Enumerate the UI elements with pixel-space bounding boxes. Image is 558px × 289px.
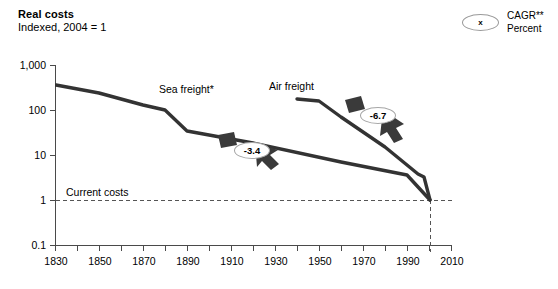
y-ticks <box>50 66 55 246</box>
y-tick-label-100: 100 <box>2 105 46 116</box>
x-tick-label-1950: 1950 <box>298 256 342 267</box>
x-tick-label-1930: 1930 <box>254 256 298 267</box>
x-tick-label-1890: 1890 <box>166 256 210 267</box>
y-tick-label-0-1: 0.1 <box>2 240 46 251</box>
current-costs-label: Current costs <box>66 186 128 198</box>
x-tick-label-1990: 1990 <box>386 256 430 267</box>
cagr-bubble-air-freight: -6.7 <box>360 107 396 124</box>
x-tick-label-2010: 2010 <box>430 256 474 267</box>
x-tick-label-1910: 1910 <box>210 256 254 267</box>
y-tick-label-1: 1 <box>2 195 46 206</box>
chart-root: Real costs Indexed, 2004 = 1 x CAGR** Pe… <box>0 0 558 289</box>
series-label-sea-freight: Sea freight* <box>159 83 214 95</box>
cagr-arrow-sea-tail <box>218 132 237 148</box>
x-tick-label-1970: 1970 <box>342 256 386 267</box>
x-tick-label-1850: 1850 <box>78 256 122 267</box>
y-tick-label-1000: 1,000 <box>2 60 46 71</box>
series-label-air-freight: Air freight <box>269 80 314 92</box>
x-tick-label-1830: 1830 <box>34 256 78 267</box>
x-tick-label-1870: 1870 <box>122 256 166 267</box>
cagr-bubble-sea-freight: -3.4 <box>234 142 270 159</box>
y-tick-label-10: 10 <box>2 150 46 161</box>
plot-area <box>0 0 558 289</box>
cagr-value-sea-freight: -3.4 <box>244 146 260 156</box>
cagr-value-air-freight: -6.7 <box>370 111 386 121</box>
